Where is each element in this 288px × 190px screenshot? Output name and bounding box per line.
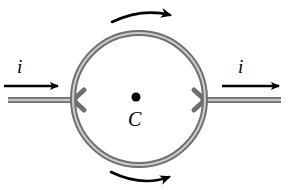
diagram-background [0, 0, 288, 190]
current-loop-diagram: i i C [0, 0, 288, 190]
current-label-right: i [238, 57, 243, 76]
diagram-canvas [0, 0, 288, 190]
current-label-left: i [17, 57, 22, 76]
center-point-label: C [128, 109, 141, 129]
center-point-marker [132, 93, 141, 102]
